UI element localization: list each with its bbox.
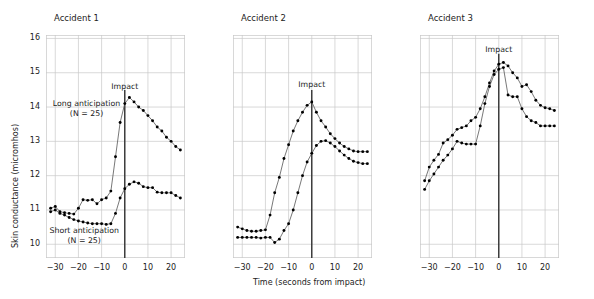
plot-area-3 [420,35,559,258]
y-tick-label: 11 [20,204,40,213]
annotation-impact: Impact [454,45,544,55]
x-tick-label: 20 [530,263,560,272]
annotation-n-25: (N = 25) [42,109,132,119]
y-tick-label: 13 [20,136,40,145]
y-tick-label: 16 [20,33,40,42]
y-tick-label: 10 [20,239,40,248]
annotation-impact: Impact [267,80,357,90]
annotation-long-anticipation: Long anticipation [42,99,132,109]
annotation-short-anticipation: Short anticipation [39,226,129,236]
figure-root: Skin conductance (micromhos) Time (secon… [0,0,594,299]
panel-title-3: Accident 3 [428,13,473,23]
panel-title-2: Accident 2 [241,13,286,23]
x-tick-label: 20 [343,263,373,272]
y-tick-label: 14 [20,102,40,111]
y-tick-label: 12 [20,170,40,179]
x-axis-label: Time (seconds from impact) [253,278,365,287]
panel-title-1: Accident 1 [54,13,99,23]
y-tick-label: 15 [20,67,40,76]
y-axis-label: Skin conductance (micromhos) [11,124,20,248]
plot-area-2 [233,35,372,258]
annotation-n-25: (N = 25) [39,236,129,246]
x-tick-label: 20 [156,263,186,272]
annotation-impact: Impact [80,82,170,92]
plot-area-1 [46,35,185,258]
